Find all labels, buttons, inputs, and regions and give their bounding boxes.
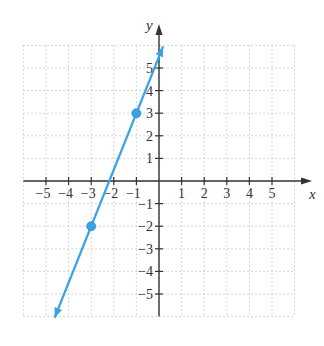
line-arrow-down-icon <box>55 307 62 318</box>
y-tick-label: 2 <box>146 129 153 144</box>
coordinate-plane: −5−4−3−2−11234554321−1−2−3−4−5 x y <box>0 0 324 346</box>
x-axis-arrow-icon <box>301 178 312 185</box>
y-tick-label: −3 <box>138 242 153 257</box>
data-point <box>87 222 96 231</box>
x-tick-label: 2 <box>201 186 208 201</box>
y-tick-label: 3 <box>146 106 153 121</box>
y-tick-label: 1 <box>146 151 153 166</box>
data-point <box>132 109 141 118</box>
x-tick-label: −3 <box>81 186 96 201</box>
x-tick-label: −4 <box>58 186 73 201</box>
y-tick-label: −2 <box>138 219 153 234</box>
y-axis-label: y <box>144 17 153 33</box>
x-tick-label: 4 <box>246 186 253 201</box>
x-tick-label: 3 <box>223 186 230 201</box>
y-axis-arrow-icon <box>156 24 163 35</box>
y-tick-label: −5 <box>138 287 153 302</box>
x-tick-label: 1 <box>178 186 185 201</box>
y-tick-label: −1 <box>138 197 153 212</box>
y-tick-label: −4 <box>138 264 153 279</box>
x-tick-label: −5 <box>36 186 51 201</box>
x-tick-label: 5 <box>269 186 276 201</box>
x-axis-label: x <box>308 186 316 202</box>
